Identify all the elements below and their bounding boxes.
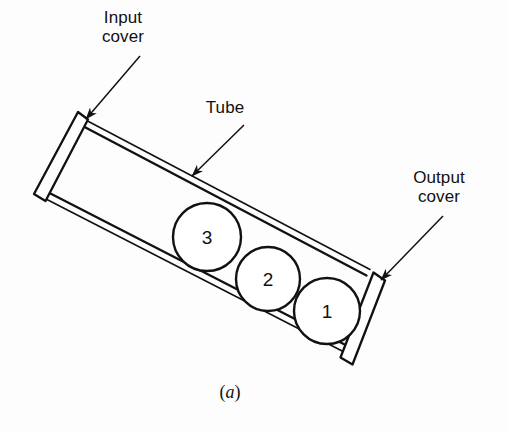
input-cover-bar bbox=[34, 112, 88, 201]
output-cover-label-line2: cover bbox=[378, 187, 500, 206]
tube-arrow bbox=[192, 125, 244, 176]
input-cover-arrow bbox=[86, 56, 140, 119]
input-cover-label: Input cover bbox=[68, 8, 178, 46]
figure-container: 3 2 1 Input cover Tube Output cover (a) bbox=[0, 0, 509, 431]
caption-close-paren: ) bbox=[235, 382, 241, 402]
ball-2-label: 2 bbox=[263, 269, 274, 290]
tube-label: Tube bbox=[185, 98, 265, 117]
tube-ball-diagram: 3 2 1 bbox=[0, 0, 509, 431]
output-cover-label: Output cover bbox=[378, 168, 500, 206]
output-cover-arrow bbox=[381, 216, 443, 280]
tube-label-line1: Tube bbox=[185, 98, 265, 117]
ball-1: 1 bbox=[294, 278, 360, 344]
caption-letter: a bbox=[226, 382, 235, 402]
figure-caption: (a) bbox=[0, 382, 460, 403]
ball-1-label: 1 bbox=[322, 301, 333, 322]
output-cover-label-line1: Output bbox=[378, 168, 500, 187]
ball-3-label: 3 bbox=[202, 227, 213, 248]
ball-3: 3 bbox=[173, 203, 241, 271]
input-cover-label-line1: Input bbox=[68, 8, 178, 27]
input-cover-shape bbox=[34, 112, 88, 201]
ball-2: 2 bbox=[236, 247, 300, 311]
input-cover-label-line2: cover bbox=[68, 27, 178, 46]
